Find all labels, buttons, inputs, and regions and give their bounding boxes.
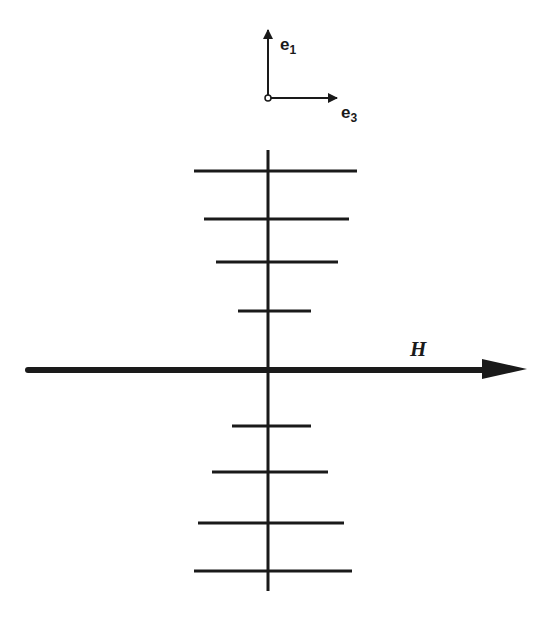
field-arrow-H: H (28, 337, 527, 379)
e3-label: e3 (341, 103, 357, 125)
origin-circle (265, 95, 271, 101)
field-arrowhead-icon (482, 359, 527, 379)
coordinate-axes: e1 e3 (265, 30, 357, 125)
field-label-H: H (409, 337, 427, 361)
diagram-canvas: e1 e3 H (0, 0, 546, 617)
e1-label: e1 (280, 35, 296, 57)
